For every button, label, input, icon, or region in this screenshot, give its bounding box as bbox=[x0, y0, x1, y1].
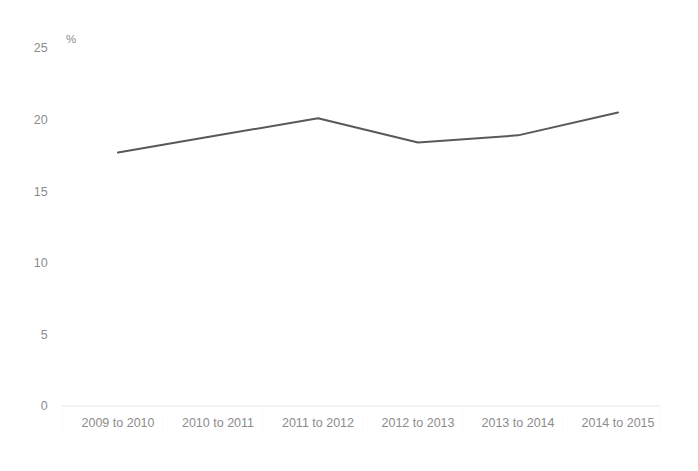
data-series-line bbox=[118, 112, 618, 152]
plot-area bbox=[0, 0, 698, 471]
line-chart: % 25 20 15 10 5 0 2009 to 2010 2010 to 2… bbox=[0, 0, 698, 471]
